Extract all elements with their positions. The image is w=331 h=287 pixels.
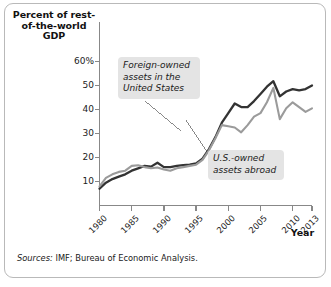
annotation-foreign-owned-assets: Foreign-owned assets in the United State… xyxy=(118,57,200,99)
y-tick-label: 20 xyxy=(58,152,94,162)
y-tick-label: 60% xyxy=(58,56,94,66)
source-text: IMF; Bureau of Economic Analysis. xyxy=(55,253,197,263)
source-label: Sources: xyxy=(17,253,53,263)
y-tick-label: 30 xyxy=(58,128,94,138)
x-axis-title: Year xyxy=(270,228,314,239)
chart-plot xyxy=(0,0,331,287)
annotation-leader-lines xyxy=(145,101,207,152)
annotation-us-owned-assets: U.S.-owned assets abroad xyxy=(208,150,284,180)
y-tick-label: 40 xyxy=(58,104,94,114)
leader-line-foreign-owned xyxy=(145,101,181,131)
figure-container: Percent of rest-of-the-world GDP 60%5040… xyxy=(0,0,331,287)
leader-line-us-owned xyxy=(186,120,207,152)
y-tick-label: 10 xyxy=(58,176,94,186)
y-tick-label: 50 xyxy=(58,80,94,90)
source-note: Sources: IMF; Bureau of Economic Analysi… xyxy=(17,253,198,263)
